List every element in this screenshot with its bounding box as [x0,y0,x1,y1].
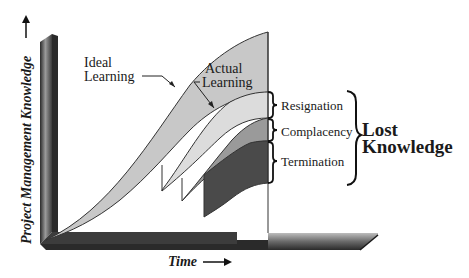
actual-learning-label-1: Actual [205,61,242,76]
ideal-learning-label-1: Ideal [84,55,112,70]
termination-label: Termination [281,154,345,169]
complacency-label: Complacency [281,124,353,139]
x-axis-label: Time [168,254,197,269]
termination-area [204,141,268,217]
ideal-learning-label-2: Learning [84,69,135,84]
y-axis-label: Project Management Knowledge [19,56,34,244]
ideal-leader-arrow [142,76,175,87]
knowledge-loss-diagram: Ideal Learning Actual Learning Resignati… [0,0,469,278]
actual-learning-label-2: Learning [202,75,253,90]
termination-brace [268,142,277,183]
lost-knowledge-title-2: Knowledge [362,136,453,157]
y-axis-arrow [22,15,30,38]
y-axis-bar [40,34,58,244]
complacency-brace [268,119,277,141]
resignation-label: Resignation [281,98,344,113]
x-axis-bar [40,232,378,250]
resignation-brace [268,92,277,118]
x-axis-arrow [203,258,232,266]
